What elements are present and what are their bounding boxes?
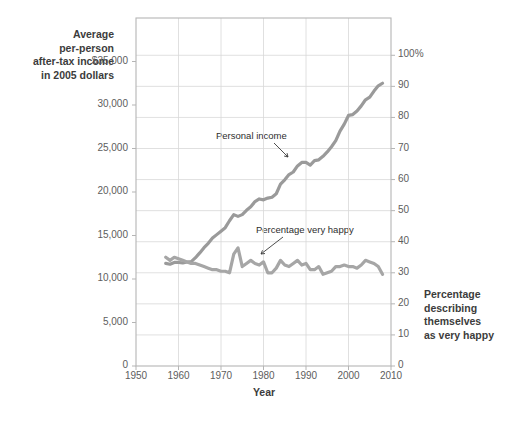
grid-lines bbox=[136, 18, 391, 366]
leader-line-personal-income bbox=[274, 143, 288, 157]
leader-line-percentage-very-happy bbox=[261, 237, 283, 254]
data-series bbox=[166, 83, 383, 274]
series-line bbox=[166, 83, 383, 264]
series-line bbox=[166, 248, 383, 274]
plot-canvas bbox=[0, 0, 512, 421]
chart-figure: Average per-person after-tax income in 2… bbox=[0, 0, 512, 421]
